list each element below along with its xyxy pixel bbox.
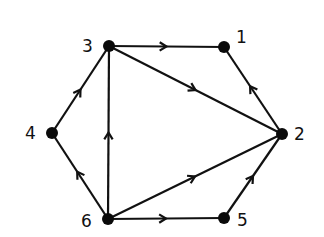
- nodes-layer: [46, 40, 288, 225]
- node-label-3: 3: [82, 36, 93, 56]
- node-3: [103, 40, 115, 52]
- directed-graph-diagram: 123456: [0, 0, 324, 237]
- node-5: [218, 212, 230, 224]
- labels-layer: 123456: [25, 27, 305, 231]
- node-4: [46, 127, 58, 139]
- edge-2-to-1: [224, 47, 282, 134]
- node-label-4: 4: [25, 123, 36, 143]
- node-label-2: 2: [294, 124, 305, 144]
- node-2: [276, 128, 288, 140]
- node-label-5: 5: [237, 210, 248, 230]
- node-label-6: 6: [81, 211, 92, 231]
- node-1: [218, 41, 230, 53]
- node-6: [102, 213, 114, 225]
- edges-layer: [52, 46, 282, 219]
- edge-6-to-4: [52, 133, 108, 219]
- arrows-layer: [73, 42, 257, 222]
- node-label-1: 1: [236, 27, 247, 47]
